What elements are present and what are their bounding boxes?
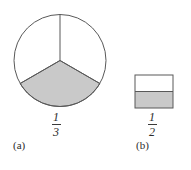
panel-a-circle-diagram xyxy=(12,12,108,109)
panel-b-square-diagram xyxy=(134,74,174,109)
fraction-label-a: 1 3 xyxy=(51,111,61,138)
fraction-label-b: 1 2 xyxy=(147,111,157,138)
fraction-a-numerator: 1 xyxy=(51,111,61,124)
shaded-bottom-half-one-half xyxy=(135,92,173,109)
square-svg xyxy=(134,74,174,109)
fraction-a-denominator: 3 xyxy=(51,125,61,138)
shaded-sector-one-third xyxy=(20,61,100,107)
panel-caption-a: (a) xyxy=(13,139,25,151)
panel-caption-b: (b) xyxy=(136,139,149,151)
unshaded-top-half xyxy=(135,75,173,92)
fraction-b-numerator: 1 xyxy=(147,111,157,124)
circle-svg xyxy=(12,12,108,109)
fractions-figure: 1 3 1 2 (a) (b) xyxy=(0,0,191,170)
fraction-b-denominator: 2 xyxy=(147,125,157,138)
